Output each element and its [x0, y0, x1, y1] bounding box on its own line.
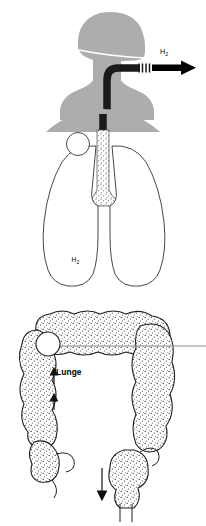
- panel-colon: Dickdarm Diffusion H2 bildende Bakterien…: [0, 286, 206, 526]
- lungs-diagram: [0, 118, 206, 288]
- h2-bubble-colon-icon: [36, 332, 60, 356]
- lung-right: [110, 146, 165, 286]
- rectum-cecum: [109, 450, 148, 508]
- panel-lungs: H2 Lunge: [0, 118, 206, 288]
- colon-diagram: [0, 286, 206, 526]
- ascending-colon: [132, 324, 175, 452]
- exit-arrow-icon: [98, 468, 107, 500]
- h2-bubble-icon: [67, 133, 90, 156]
- label-h2-bubble: H2: [72, 257, 80, 264]
- label-h2-exhaled: H2: [160, 48, 168, 55]
- sigmoid-colon: [29, 441, 59, 482]
- panel-head-exhalation: H2: [0, 0, 206, 120]
- exhale-arrow-icon: [152, 61, 196, 76]
- airflow-ticks: [139, 64, 150, 73]
- lung-left: [43, 146, 98, 286]
- head-diagram: [0, 0, 206, 120]
- sigmoid-tail2: [52, 480, 57, 498]
